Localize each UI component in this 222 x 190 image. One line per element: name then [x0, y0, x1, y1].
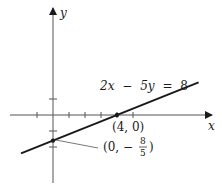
- graph: y x 2x − 5y = 8 (4, 0) (0, − 8 5 ): [0, 0, 222, 190]
- fraction-denominator: 5: [140, 148, 146, 158]
- point-label-y-intercept: (0, −: [103, 140, 133, 154]
- point-label-x-intercept: (4, 0): [112, 120, 144, 134]
- equation-label: 2x − 5y = 8: [99, 79, 188, 93]
- fraction-numerator: 8: [140, 136, 146, 146]
- x-axis-label: x: [208, 119, 215, 133]
- x-intercept-point: [115, 113, 119, 117]
- y-axis-label: y: [59, 6, 67, 20]
- label-close-paren: ): [149, 140, 154, 154]
- y-intercept-point: [51, 138, 55, 142]
- intercept-pointer: [56, 140, 98, 148]
